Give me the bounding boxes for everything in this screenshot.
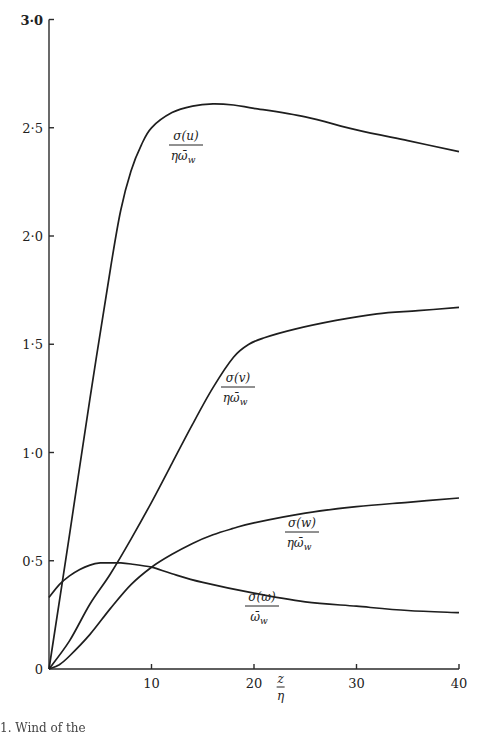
y-tick-label: 0 xyxy=(35,662,43,677)
label-denominator: ηω̄w xyxy=(223,391,248,407)
y-tick-label: 1·5 xyxy=(22,337,43,352)
label-numerator: σ(v) xyxy=(226,371,251,385)
figure-caption: 1. Wind of the xyxy=(0,721,483,735)
label-sigma-w: σ(w)ηω̄w xyxy=(285,516,319,552)
y-tick-label: 0·5 xyxy=(22,554,43,569)
curves xyxy=(49,104,459,669)
x-tick-label: 20 xyxy=(246,676,263,691)
label-numerator: σ(u) xyxy=(173,129,199,143)
x-label-denominator: η xyxy=(277,689,285,703)
y-tick-label: 2·5 xyxy=(22,121,43,136)
curve-sigma-w xyxy=(49,498,459,669)
curve-sigma-omega xyxy=(49,563,459,613)
label-denominator: ω̄w xyxy=(250,610,268,626)
curve-labels: σ(u)ηω̄wσ(v)ηω̄wσ(w)ηω̄wσ(ω)ω̄w xyxy=(169,129,319,626)
label-denominator: ηω̄w xyxy=(287,536,312,552)
label-denominator: ηω̄w xyxy=(171,149,196,165)
x-tick-label: 10 xyxy=(143,676,160,691)
label-sigma-v: σ(v)ηω̄w xyxy=(221,371,255,407)
x-tick-label: 40 xyxy=(451,676,468,691)
x-tick-label: 30 xyxy=(348,676,365,691)
x-axis-label: zη xyxy=(276,672,285,703)
y-tick-label: 3·0 xyxy=(20,13,43,28)
curve-sigma-u xyxy=(49,104,459,669)
label-sigma-omega: σ(ω)ω̄w xyxy=(245,590,279,626)
label-numerator: σ(w) xyxy=(288,516,316,530)
y-tick-label: 2·0 xyxy=(22,229,43,244)
y-tick-label: 1·0 xyxy=(22,446,43,461)
x-label-numerator: z xyxy=(276,672,284,686)
axes xyxy=(49,20,459,670)
tick-labels: 00·51·01·52·02·53·010203040 xyxy=(20,13,467,692)
label-numerator: σ(ω) xyxy=(248,590,276,604)
label-sigma-u: σ(u)ηω̄w xyxy=(169,129,203,165)
